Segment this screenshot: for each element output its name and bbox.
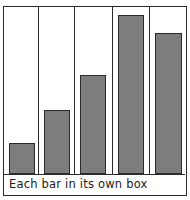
bar-box-4 — [113, 7, 150, 174]
bar-1 — [9, 143, 35, 174]
bar-3 — [80, 75, 106, 174]
plot-area — [4, 7, 185, 174]
bar-5 — [155, 33, 182, 174]
bar-box-1 — [4, 7, 39, 174]
bar-4 — [118, 15, 144, 174]
bar-chart: Each bar in its own box — [3, 6, 187, 196]
bar-box-2 — [39, 7, 75, 174]
bar-box-3 — [75, 7, 113, 174]
chart-caption: Each bar in its own box — [4, 174, 185, 195]
bar-2 — [44, 110, 70, 174]
bar-box-5 — [150, 7, 185, 174]
